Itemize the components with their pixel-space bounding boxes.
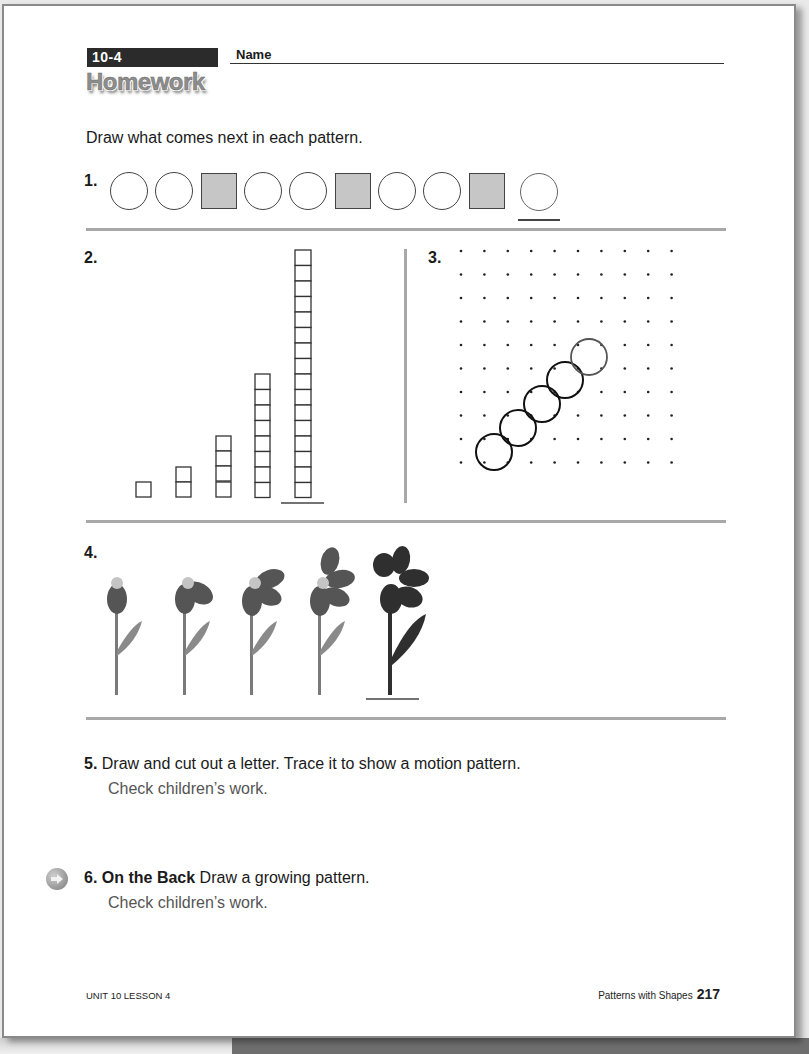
problem-1-answer-line[interactable] <box>518 219 560 221</box>
problem-6-text: Draw a growing pattern. <box>200 869 370 886</box>
footer-page-info: Patterns with Shapes217 <box>598 986 720 1002</box>
problem-6-number: 6. <box>84 869 97 886</box>
flower-2 <box>175 577 217 695</box>
worksheet-page: 10-4 Name Homework Draw what comes next … <box>2 4 796 1038</box>
circle-shape <box>289 172 327 210</box>
square-shape <box>469 173 505 209</box>
problem-4-flower-pattern <box>99 541 439 706</box>
section-divider <box>86 520 726 523</box>
problem-3-number: 3. <box>428 249 441 267</box>
flower-5-answer <box>366 545 429 699</box>
flower-4 <box>310 545 356 695</box>
circle-shape <box>244 172 282 210</box>
square-shape <box>201 173 237 209</box>
section-divider <box>86 228 726 231</box>
footer-unit-lesson: UNIT 10 LESSON 4 <box>86 990 170 1001</box>
arrow-right-icon <box>46 868 68 890</box>
problem-5: 5. Draw and cut out a letter. Trace it t… <box>84 755 521 773</box>
problem-6-answer: Check children’s work. <box>108 894 268 912</box>
flower-1 <box>107 577 142 695</box>
footer-section-title: Patterns with Shapes <box>598 990 693 1001</box>
circle-shape <box>155 172 193 210</box>
problem-1-number: 1. <box>84 172 97 190</box>
circle-shape <box>110 172 148 210</box>
problem-4-number: 4. <box>84 544 97 562</box>
lesson-code-badge: 10-4 <box>87 48 218 67</box>
problem-5-number: 5. <box>84 755 97 772</box>
name-field-line[interactable] <box>230 63 724 64</box>
square-shape <box>335 173 371 209</box>
section-divider <box>86 717 726 720</box>
instructions-text: Draw what comes next in each pattern. <box>86 129 363 147</box>
column-divider <box>404 249 407 503</box>
next-page-edge <box>232 1038 809 1054</box>
name-label: Name <box>236 47 271 62</box>
flower-3 <box>242 565 287 695</box>
problem-5-text: Draw and cut out a letter. Trace it to s… <box>102 755 521 772</box>
circle-shape <box>378 172 416 210</box>
problem-6-label: On the Back <box>102 869 195 886</box>
page-number: 217 <box>697 986 720 1002</box>
problem-2-number: 2. <box>84 249 97 267</box>
homework-title: Homework <box>86 68 205 96</box>
problem-5-answer: Check children’s work. <box>108 780 268 798</box>
problem-2-growing-towers <box>124 246 334 506</box>
circle-shape <box>423 172 461 210</box>
answer-circle-shape <box>520 173 558 211</box>
page-shadow-band <box>0 1038 232 1054</box>
problem-3-dot-grid <box>444 242 684 482</box>
problem-6: 6. On the Back Draw a growing pattern. <box>84 869 369 887</box>
